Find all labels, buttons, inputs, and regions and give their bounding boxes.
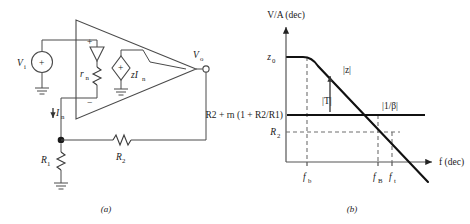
- ytick-label-z0: z 0: [266, 52, 276, 64]
- svg-text:z: z: [266, 52, 271, 62]
- output-node: [196, 66, 209, 72]
- svg-text:n: n: [61, 113, 65, 120]
- svg-text:I: I: [55, 108, 60, 118]
- input-source-label: V i: [17, 58, 26, 70]
- wire-dep-source-to-output: [121, 50, 186, 69]
- annotation-noise-gain: |1/β|: [382, 101, 398, 111]
- panel-b-caption: (b): [347, 204, 358, 214]
- svg-text:n: n: [142, 75, 146, 82]
- resistor-r2: [61, 135, 135, 145]
- opamp-minus-label: −: [87, 98, 92, 108]
- dependent-source-diamond: +: [112, 50, 130, 89]
- figure-root: + − + V i: [0, 0, 470, 224]
- internal-arrow-triangle: [90, 47, 104, 67]
- resistor-rn-label: r n: [80, 69, 90, 81]
- x-axis-title: f (dec): [439, 157, 464, 168]
- xtick-label-ft: f t: [389, 172, 396, 184]
- svg-text:B: B: [378, 177, 383, 184]
- ytick-label-r2: R 2: [269, 127, 281, 139]
- xtick-label-fb: f b: [303, 172, 312, 184]
- svg-text:i: i: [24, 63, 26, 70]
- svg-text:o: o: [200, 55, 204, 62]
- svg-text:f (dec): f (dec): [439, 157, 464, 168]
- ground-symbol-dep-source: [114, 89, 128, 95]
- annotation-z-magnitude: |z|: [343, 65, 351, 75]
- svg-text:2: 2: [277, 132, 281, 139]
- input-source-polarity: +: [39, 58, 44, 68]
- ground-symbol-r1: [54, 183, 68, 189]
- wire-output-to-feedback: [135, 72, 206, 140]
- svg-text:R: R: [269, 127, 276, 137]
- dependent-source-label: zI n: [130, 70, 146, 82]
- y-axis-title: V/A (dec): [267, 10, 305, 21]
- resistor-r2-label: R 2: [115, 152, 126, 164]
- svg-text:t: t: [394, 177, 396, 184]
- xtick-label-fB: f B: [373, 172, 383, 184]
- annotation-loop-gain: |T|: [322, 96, 332, 106]
- ground-symbol-input: [35, 88, 49, 94]
- svg-text:f: f: [373, 172, 377, 182]
- svg-text:0: 0: [272, 57, 276, 64]
- svg-text:R: R: [115, 152, 122, 162]
- resistor-r1-label: R 1: [40, 155, 50, 167]
- panel-a-caption: (a): [101, 204, 112, 214]
- svg-text:r: r: [80, 69, 84, 79]
- svg-text:R: R: [40, 155, 47, 165]
- noise-current-label: I n: [55, 108, 65, 120]
- ytick-label-noise-gain: R2 + rn (1 + R2/R1): [206, 110, 283, 121]
- svg-text:f: f: [389, 172, 393, 182]
- svg-text:b: b: [308, 177, 312, 184]
- input-source-symbol: +: [32, 52, 53, 73]
- wire-source-to-plus: [42, 40, 76, 52]
- svg-text:V: V: [193, 50, 200, 60]
- svg-text:1: 1: [47, 160, 50, 167]
- resistor-r1: [57, 144, 65, 184]
- curve-z-magnitude: [287, 57, 428, 182]
- svg-text:n: n: [86, 74, 90, 81]
- figure-svg: + − + V i: [0, 0, 470, 224]
- dependent-source-polarity: +: [118, 63, 123, 73]
- svg-text:f: f: [303, 172, 307, 182]
- svg-text:zI: zI: [130, 70, 139, 80]
- output-node-label: V o: [193, 50, 204, 62]
- panel-b-plot: V/A (dec) f (dec): [206, 10, 465, 214]
- panel-a-circuit: + − + V i: [17, 20, 209, 214]
- svg-text:2: 2: [122, 157, 126, 164]
- opamp-plus-label: +: [87, 37, 92, 47]
- svg-text:V: V: [17, 58, 24, 68]
